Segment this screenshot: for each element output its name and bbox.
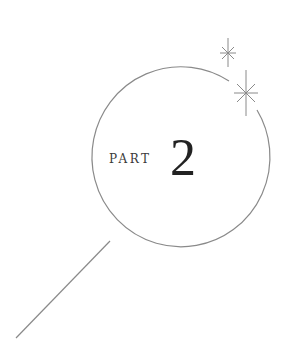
- part-number: 2: [170, 128, 196, 188]
- sparkle-large-icon: [234, 70, 258, 116]
- magnifier-handle-icon: [16, 241, 110, 338]
- part-label: PART: [109, 152, 151, 166]
- sparkle-small-icon: [220, 38, 236, 67]
- magnifying-glass-illustration: [0, 0, 298, 339]
